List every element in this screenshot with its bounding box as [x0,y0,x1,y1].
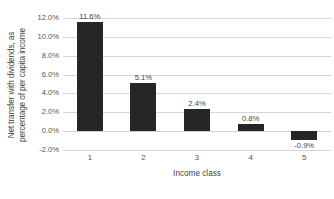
bar-value-label: 5.1% [135,73,152,82]
bar-chart: Net transfer with dividends, as percenta… [0,0,334,199]
y-axis-tick-label: 12.0% [37,14,59,22]
y-axis-title-line-2: percentage of per capita income [17,28,28,142]
bar-group: -0.9% [277,18,331,150]
bar-value-label: 0.8% [242,114,259,123]
y-axis-tick-label: 10.0% [37,33,59,41]
y-axis-tick-label: 8.0% [42,52,59,60]
y-axis-title: Net transfer with dividends, as percenta… [0,0,34,170]
bar[interactable] [238,124,264,132]
bar[interactable] [77,22,103,131]
bars-layer: 11.6%5.1%2.4%0.8%-0.9% [63,18,331,150]
gridline [63,150,331,151]
y-axis-tick-label: 0.0% [42,127,59,135]
bar[interactable] [184,109,210,132]
bar-group: 0.8% [224,18,278,150]
bar[interactable] [130,83,156,131]
bar-value-label: -0.9% [294,141,314,150]
x-axis-tick-label: 5 [302,152,306,164]
x-axis-tick-label: 3 [195,152,199,164]
x-axis-tick-label: 1 [88,152,92,164]
y-axis-tick-label: 4.0% [42,89,59,97]
y-axis-tick-labels: 12.0%10.0%8.0%6.0%4.0%2.0%0.0%-2.0% [34,18,60,150]
bar-value-label: 2.4% [188,99,205,108]
y-axis-tick-label: -2.0% [39,146,59,154]
x-axis-tick-label: 2 [141,152,145,164]
x-axis-tick-labels: 12345 [63,152,331,166]
bar-group: 5.1% [117,18,171,150]
x-axis-title: Income class [63,168,331,179]
bar-group: 2.4% [170,18,224,150]
plot-area: 11.6%5.1%2.4%0.8%-0.9% [63,18,331,150]
bar-value-label: 11.6% [79,12,100,21]
y-axis-tick-label: 6.0% [42,71,59,79]
bar[interactable] [291,131,317,139]
y-axis-title-line-1: Net transfer with dividends, as [6,28,17,142]
x-axis-tick-label: 4 [248,152,252,164]
y-axis-tick-label: 2.0% [42,108,59,116]
bar-group: 11.6% [63,18,117,150]
